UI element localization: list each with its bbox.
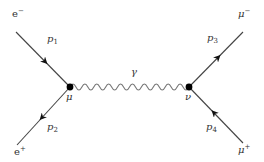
label-photon: γ (131, 67, 137, 77)
label-positron: e+ (14, 146, 26, 157)
diagram-canvas (0, 0, 264, 162)
label-vertex-nu: ν (185, 92, 191, 102)
label-p3: p3 (207, 33, 218, 45)
positron-line (17, 87, 70, 145)
vertex-nu-dot (186, 84, 193, 91)
label-p4: p4 (206, 122, 217, 134)
label-electron: e− (12, 8, 24, 19)
feynman-diagram: e− e+ μ− μ+ p1 p2 p3 p4 μ ν γ (0, 0, 264, 162)
label-muon-plus: μ+ (238, 144, 250, 155)
photon-propagator (70, 84, 189, 90)
label-muon-minus: μ− (238, 8, 250, 19)
label-p1: p1 (47, 34, 58, 46)
label-p2: p2 (47, 122, 58, 134)
muon-plus-line (189, 87, 243, 143)
vertex-mu-dot (67, 84, 74, 91)
label-vertex-mu: μ (66, 92, 73, 102)
electron-line (16, 32, 70, 87)
